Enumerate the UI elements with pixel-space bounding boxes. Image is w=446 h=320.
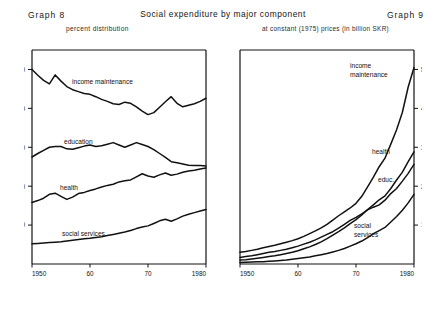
y-tick-label: 50 [24, 66, 25, 73]
graph-right-label: Graph 9 [387, 10, 424, 20]
y-tick-label: 20 [421, 183, 422, 190]
y-tick-label: 10 [421, 221, 422, 228]
y-tick-label: 30 [24, 144, 25, 151]
graph9-panel: 1020304050 195060701980 income maintenan… [232, 44, 422, 294]
x-tick-label: 1980 [192, 270, 207, 277]
graph8-plot: 1020304050 195060701980 income maintenan… [24, 44, 214, 294]
x-tick-label: 70 [352, 270, 360, 277]
graph9-label-education: educ. [378, 176, 394, 183]
subtitle-right: at constant (1975) prices (in billion SK… [262, 25, 389, 32]
series-line-health [32, 168, 206, 203]
series-line-social-services [32, 210, 206, 244]
graph8-panel: 1020304050 195060701980 income maintenan… [24, 44, 214, 294]
y-tick-label: 50 [421, 66, 422, 73]
chart-title: Social expenditure by major component [0, 9, 446, 19]
graph9-label-social-services-line1: social [354, 222, 371, 229]
graph9-label-health: health [372, 148, 390, 155]
graph9-plot: 1020304050 195060701980 income maintenan… [232, 44, 422, 294]
x-tick-label: 1980 [400, 270, 415, 277]
graph8-series [32, 69, 206, 243]
series-line-health [240, 152, 414, 260]
subtitle-left: percent distribution [66, 25, 129, 32]
graph8-label-health: health [60, 184, 78, 191]
y-tick-label: 40 [24, 105, 25, 112]
chart-header: Graph 8 Social expenditure by major comp… [0, 0, 446, 44]
x-tick-label: 1950 [32, 270, 47, 277]
y-tick-label: 20 [24, 183, 25, 190]
graph9-label-income-maintenance-line1: income [350, 62, 372, 69]
graph8-label-income-maintenance: income maintenance [72, 78, 133, 85]
graph8-label-education: education [64, 138, 93, 145]
graph8-y-ticklabels: 1020304050 [24, 66, 25, 229]
series-line-education [32, 143, 206, 166]
graph9-label-income-maintenance-line2: maintenance [350, 71, 388, 78]
chart-page: Graph 8 Social expenditure by major comp… [0, 0, 446, 320]
graph9-x-ticklabels: 195060701980 [240, 270, 414, 277]
x-tick-label: 60 [294, 270, 302, 277]
graph8-ticks [28, 69, 206, 267]
graph8-x-ticklabels: 195060701980 [32, 270, 206, 277]
y-tick-label: 10 [24, 221, 25, 228]
graph8-label-social-services: social services [62, 230, 106, 237]
y-tick-label: 30 [421, 144, 422, 151]
graph9-series [240, 68, 414, 263]
graph9-label-social-services-line2: services [354, 231, 379, 238]
x-tick-label: 60 [86, 270, 94, 277]
x-tick-label: 70 [144, 270, 152, 277]
series-line-income-maintenance [32, 69, 206, 114]
y-tick-label: 40 [421, 105, 422, 112]
graph9-y-ticklabels: 1020304050 [421, 66, 422, 229]
x-tick-label: 1950 [240, 270, 255, 277]
